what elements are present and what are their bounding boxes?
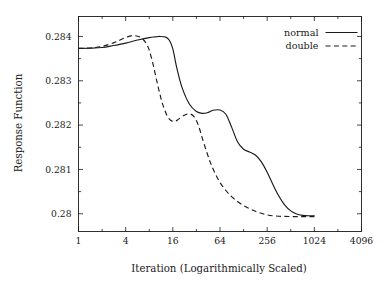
legend-label-normal: normal bbox=[284, 27, 318, 38]
plot-frame bbox=[79, 17, 362, 232]
y-tick-label: 0.282 bbox=[45, 119, 71, 130]
response-function-line-chart: 141664256102440960.280.2810.2820.2830.28… bbox=[0, 0, 384, 292]
y-axis-title: Response Function bbox=[13, 73, 24, 172]
legend-label-double: double bbox=[286, 40, 319, 51]
chart-legend: normaldouble bbox=[284, 27, 357, 52]
series-line-double bbox=[79, 35, 315, 216]
chart-container: 141664256102440960.280.2810.2820.2830.28… bbox=[0, 0, 384, 292]
y-tick-label: 0.283 bbox=[45, 75, 71, 86]
x-tick-label: 16 bbox=[167, 235, 179, 246]
x-tick-label: 256 bbox=[258, 235, 276, 246]
x-tick-label: 1024 bbox=[303, 235, 327, 246]
y-tick-label: 0.281 bbox=[45, 164, 71, 175]
x-tick-label: 64 bbox=[214, 235, 226, 246]
series-line-normal bbox=[79, 36, 315, 215]
series-layer bbox=[79, 35, 315, 216]
axes-layer bbox=[79, 17, 362, 232]
y-tick-label: 0.28 bbox=[51, 208, 72, 219]
tick-labels: 141664256102440960.280.2810.2820.2830.28… bbox=[45, 31, 373, 246]
x-tick-label: 1 bbox=[76, 235, 82, 246]
x-axis-title: Iteration (Logarithmically Scaled) bbox=[131, 263, 306, 274]
y-tick-label: 0.284 bbox=[45, 31, 71, 42]
x-tick-label: 4096 bbox=[350, 235, 374, 246]
x-tick-label: 4 bbox=[123, 235, 129, 246]
